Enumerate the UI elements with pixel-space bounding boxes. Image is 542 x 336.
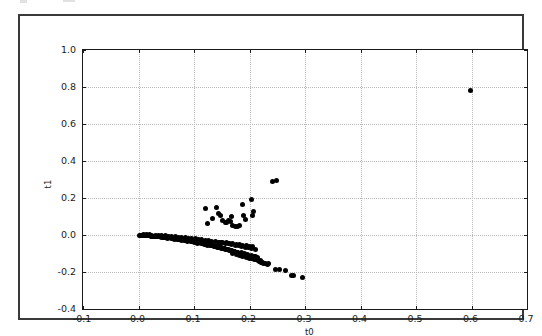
y-tick-mark: [82, 124, 86, 125]
scatter-point: [205, 221, 210, 226]
plot-area[interactable]: [82, 49, 528, 310]
scatter-point: [255, 256, 260, 261]
scatter-point: [277, 267, 282, 272]
x-tick-label: 0.4: [352, 313, 367, 324]
y-tick-mark: [82, 272, 86, 273]
scatter-point: [240, 202, 245, 207]
y-tick-label: -0.4: [42, 303, 76, 314]
x-tick-label: -0.1: [73, 313, 92, 324]
x-axis-label: t0: [305, 327, 314, 336]
scatter-point: [203, 206, 208, 211]
x-tick-mark-top: [250, 49, 251, 53]
x-tick-mark: [139, 306, 140, 310]
y-tick-mark: [82, 87, 86, 88]
x-tick-label: 0.3: [296, 313, 311, 324]
x-tick-mark: [472, 306, 473, 310]
scatter-point: [210, 216, 215, 221]
y-axis-label: t1: [43, 180, 53, 189]
y-tick-mark-right: [524, 87, 528, 88]
y-tick-mark: [82, 198, 86, 199]
x-tick-mark-top: [472, 49, 473, 53]
x-tick-label: 0.1: [185, 313, 200, 324]
x-tick-mark: [250, 306, 251, 310]
x-tick-label: 0.6: [463, 313, 478, 324]
scatter-point: [300, 275, 305, 280]
y-tick-mark-right: [524, 50, 528, 51]
scatter-point: [237, 223, 242, 228]
x-tick-mark-top: [361, 49, 362, 53]
y-tick-mark-right: [524, 235, 528, 236]
y-tick-mark: [82, 161, 86, 162]
scatter-point: [229, 214, 234, 219]
scatter-point: [468, 88, 473, 93]
scatter-points-layer: [83, 50, 527, 309]
scatter-point: [266, 261, 271, 266]
x-tick-mark: [305, 306, 306, 310]
top-crop-artifact-right: [63, 0, 75, 2]
y-tick-mark: [82, 50, 86, 51]
x-tick-label: 0.0: [130, 313, 145, 324]
scatter-point: [291, 273, 296, 278]
figure-frame: t0 t1 -0.10.00.10.20.30.40.50.60.7-0.4-0…: [18, 14, 524, 320]
y-tick-mark: [82, 235, 86, 236]
scatter-point: [283, 268, 288, 273]
y-tick-label: 0.0: [42, 229, 76, 240]
y-tick-label: 0.6: [42, 118, 76, 129]
y-tick-mark-right: [524, 124, 528, 125]
y-tick-label: 0.4: [42, 155, 76, 166]
x-tick-mark: [361, 306, 362, 310]
x-tick-label: 0.7: [518, 313, 533, 324]
y-tick-mark: [82, 309, 86, 310]
y-tick-label: 0.2: [42, 192, 76, 203]
x-tick-mark-top: [305, 49, 306, 53]
y-tick-mark-right: [524, 309, 528, 310]
y-tick-mark-right: [524, 198, 528, 199]
top-crop-artifact-left: [20, 0, 27, 3]
x-tick-mark-top: [416, 49, 417, 53]
figure-root: t0 t1 -0.10.00.10.20.30.40.50.60.7-0.4-0…: [0, 0, 542, 336]
y-tick-label: 0.8: [42, 81, 76, 92]
y-tick-label: -0.2: [42, 266, 76, 277]
x-tick-mark: [416, 306, 417, 310]
scatter-point: [251, 209, 256, 214]
y-tick-mark-right: [524, 272, 528, 273]
x-tick-label: 0.5: [407, 313, 422, 324]
scatter-point: [274, 178, 279, 183]
x-tick-mark-top: [139, 49, 140, 53]
y-tick-label: 1.0: [42, 44, 76, 55]
x-tick-label: 0.2: [241, 313, 256, 324]
scatter-point: [214, 205, 219, 210]
scatter-point: [243, 217, 248, 222]
x-tick-mark-top: [194, 49, 195, 53]
y-tick-mark-right: [524, 161, 528, 162]
scatter-point: [249, 197, 254, 202]
x-tick-mark: [194, 306, 195, 310]
